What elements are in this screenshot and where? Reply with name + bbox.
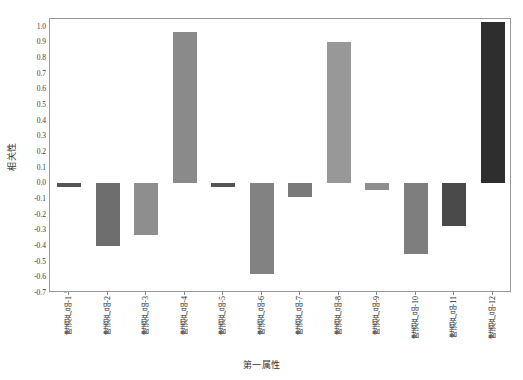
y-tick-label: 0.2 [18,147,46,156]
x-axis-title: 第一属性 [0,358,523,371]
y-tick-label: -0.3 [18,225,46,234]
y-tick-label: 0.9 [18,37,46,46]
y-tick-label: 0.1 [18,162,46,171]
y-tick-label: 0.6 [18,84,46,93]
x-tick-label: 啤酒产品-6 [256,296,267,335]
x-tick-label: 啤酒产品-4 [179,296,190,335]
bar [404,183,428,253]
x-tick-label: 啤酒产品-8 [333,296,344,335]
x-tick-label: 啤酒产品-9 [371,296,382,335]
y-tick-label: -0.5 [18,256,46,265]
y-tick-label: 0.4 [18,115,46,124]
x-tick-mark [338,292,339,295]
y-tick-label: -0.7 [18,288,46,297]
bar [250,183,274,274]
x-tick-mark [145,292,146,295]
x-tick-mark [492,292,493,295]
plot-area [49,18,511,292]
y-tick-label: 0.5 [18,100,46,109]
x-tick-label: 啤酒产品-12 [487,296,498,339]
x-tick-mark [376,292,377,295]
y-tick-label: -0.2 [18,209,46,218]
bar [327,42,351,183]
bar [442,183,466,225]
y-tick-label: 0.3 [18,131,46,140]
x-tick-label: 啤酒产品-2 [102,296,113,335]
y-tick-label: 0.7 [18,68,46,77]
bar [365,183,389,189]
x-tick-mark [107,292,108,295]
x-axis-tick-labels: 啤酒产品-1啤酒产品-2啤酒产品-3啤酒产品-4啤酒产品-5啤酒产品-6啤酒产品… [49,296,511,358]
bar [134,183,158,235]
x-tick-label: 啤酒产品-11 [448,296,459,338]
y-tick-label: 0.0 [18,178,46,187]
y-axis-title: 相关性 [5,122,18,192]
x-tick-mark [261,292,262,295]
y-axis-tick-labels: 1.00.90.80.70.60.50.40.30.20.10.0-0.1-0.… [18,18,46,292]
y-tick-label: -0.4 [18,241,46,250]
bar [211,183,235,186]
bar [173,32,197,184]
bar [481,22,505,183]
y-tick-label: -0.1 [18,194,46,203]
bars-layer [50,19,510,291]
x-tick-mark [68,292,69,295]
bar [96,183,120,246]
x-tick-mark [184,292,185,295]
bar [288,183,312,197]
x-tick-label: 啤酒产品-5 [217,296,228,335]
x-tick-label: 啤酒产品-7 [294,296,305,335]
x-tick-mark [453,292,454,295]
correlation-bar-chart: 相关性 1.00.90.80.70.60.50.40.30.20.10.0-0.… [0,0,523,380]
x-tick-mark [299,292,300,295]
x-tick-mark [415,292,416,295]
x-tick-label: 啤酒产品-10 [410,296,421,339]
y-tick-label: 1.0 [18,21,46,30]
y-tick-label: -0.6 [18,272,46,281]
y-tick-label: 0.8 [18,53,46,62]
x-tick-mark [222,292,223,295]
x-tick-label: 啤酒产品-3 [140,296,151,335]
x-tick-label: 啤酒产品-1 [63,296,74,335]
bar [57,183,81,186]
